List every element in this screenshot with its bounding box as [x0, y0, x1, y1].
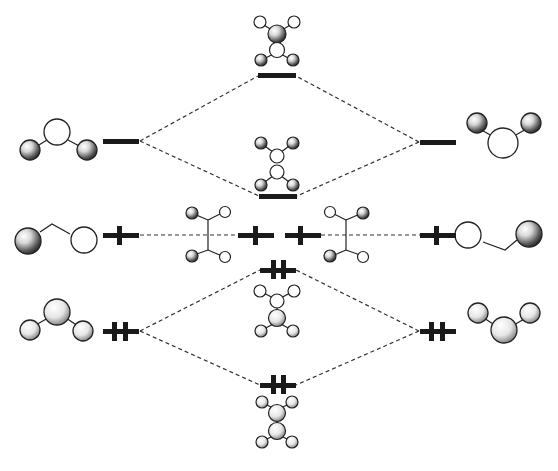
center-bottom-upper-orbital-icon [254, 285, 300, 337]
electron-down-icon [281, 260, 286, 279]
left-top-orbital-icon [20, 119, 97, 160]
right-bottom-orbital-icon [468, 303, 540, 343]
electron-up-icon [271, 260, 276, 279]
level-center-bottom-upper [260, 260, 296, 279]
electron-down-icon [281, 375, 286, 394]
level-left-mid [103, 226, 139, 245]
electron-up-icon [112, 322, 117, 341]
electron-up-icon [271, 375, 276, 394]
electron-up-icon [429, 322, 434, 341]
electron-up-icon [117, 226, 122, 245]
level-center-top-upper [258, 73, 296, 78]
level-left-top [103, 139, 139, 144]
level-center-bottom-lower [260, 375, 296, 394]
level-right-mid [420, 226, 456, 245]
mo-diagram [0, 0, 558, 471]
center-top-upper-orbital-icon [254, 16, 300, 66]
electron-up-icon [434, 226, 439, 245]
center-bottom-lower-orbital-icon [256, 396, 298, 448]
level-center-mid-right [285, 226, 321, 245]
left-mid-orbital-icon [15, 224, 97, 254]
dashed-connections [140, 76, 420, 385]
center-top-lower-orbital-icon [255, 137, 299, 191]
electron-down-icon [440, 322, 445, 341]
level-right-top [420, 140, 456, 145]
level-center-top-lower [259, 194, 297, 199]
level-left-bottom [103, 322, 139, 341]
right-mid-orbital-icon [455, 221, 542, 250]
electron-down-icon [123, 322, 128, 341]
level-center-mid-left [238, 226, 274, 245]
left-bottom-orbital-icon [20, 299, 93, 341]
level-right-bottom [420, 322, 456, 341]
electron-up-icon [253, 226, 258, 245]
right-top-orbital-icon [467, 113, 541, 158]
electron-up-icon [298, 226, 303, 245]
